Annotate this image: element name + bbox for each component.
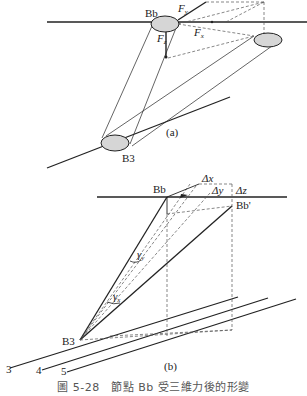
strut-original bbox=[80, 197, 167, 340]
label-part-b: (b) bbox=[164, 360, 177, 373]
strut-deformed bbox=[80, 206, 232, 340]
label-part-a: (a) bbox=[166, 126, 179, 139]
figure-caption: 圖 5-28 節點 Bb 受三維力後的形變 bbox=[0, 378, 307, 394]
part-a: Bb B3 (a) Fy Fx Fz bbox=[47, 2, 307, 168]
label-bb: Bb bbox=[145, 7, 158, 19]
label-gamma-x: γx bbox=[113, 290, 121, 304]
label-member-4: 4 bbox=[36, 364, 42, 376]
label-b3: B3 bbox=[122, 152, 135, 164]
inclined-member-a bbox=[47, 97, 230, 168]
label-member-3: 3 bbox=[6, 363, 12, 375]
label-gamma-y: γy bbox=[137, 248, 145, 262]
label-member-5: 5 bbox=[61, 365, 67, 377]
node-bb-displaced bbox=[254, 33, 282, 47]
member-5 bbox=[67, 299, 296, 372]
gamma-y-arc bbox=[130, 260, 141, 262]
part-b: Bb Bb' B3 (b) Δx Δy Δz γy γx 3 4 5 bbox=[6, 172, 296, 377]
node-b3 bbox=[101, 135, 129, 151]
label-delta-y: Δy bbox=[211, 184, 223, 196]
label-fy: Fy bbox=[177, 2, 189, 16]
label-bb-b: Bb bbox=[153, 183, 166, 195]
displaced-member-edge bbox=[132, 46, 272, 146]
label-delta-z: Δz bbox=[235, 184, 247, 196]
member-edge bbox=[102, 26, 152, 138]
deformation-diagram: Bb B3 (a) Fy Fx Fz bbox=[0, 0, 307, 396]
label-fz: Fz bbox=[156, 32, 167, 46]
member-3 bbox=[10, 297, 238, 368]
label-b3-b: B3 bbox=[62, 335, 75, 347]
label-bb-prime: Bb' bbox=[236, 199, 251, 211]
label-delta-x: Δx bbox=[201, 172, 213, 184]
displaced-member-edge bbox=[106, 36, 254, 136]
